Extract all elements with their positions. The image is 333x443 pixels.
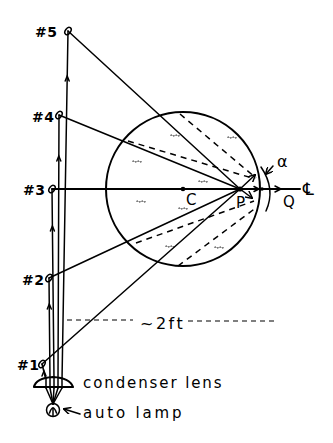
source-5-label: #5: [35, 24, 57, 40]
center-label: C: [186, 191, 196, 209]
centerline-symbol: ℄: [302, 179, 314, 199]
water-symbol: [198, 181, 208, 187]
distance-label: ~2ft: [140, 314, 185, 333]
ray-source-1: [42, 189, 240, 364]
alpha-label: α: [277, 152, 288, 171]
optics-diagram: #5 #4 #3 #2 #1 C P Q α ℄ ~2ft condenser …: [0, 0, 333, 443]
beam-to-source-5: [62, 31, 68, 380]
point-q: [260, 187, 264, 191]
beam-to-source-2: [49, 278, 50, 380]
auto-lamp-label: auto lamp: [83, 404, 184, 422]
vertical-beams: [42, 31, 69, 380]
water-symbol: [227, 137, 237, 143]
focus-point-p: [237, 186, 242, 191]
auto-lamp-icon: [47, 404, 60, 417]
beam-to-source-3: [52, 189, 54, 380]
source-4-label: #4: [32, 109, 54, 125]
alpha-pointer-arrow-icon: [266, 166, 273, 174]
water-symbol: [132, 161, 142, 167]
water-symbol: [214, 247, 224, 253]
water-marks: [132, 135, 237, 253]
lamp-pointer-arrow-icon: [64, 409, 80, 414]
water-symbol: [170, 135, 180, 141]
water-symbol: [136, 201, 146, 207]
center-point-c: [181, 187, 186, 192]
focus-label: P: [236, 194, 245, 212]
source-1-label: #1: [17, 357, 39, 373]
q-label: Q: [283, 193, 295, 211]
ray-source-5: [68, 31, 240, 189]
source-3-label: #3: [23, 182, 45, 198]
ray-source-4: [59, 115, 240, 189]
source-2-label: #2: [22, 272, 44, 288]
condenser-lens-label: condenser lens: [83, 374, 223, 392]
